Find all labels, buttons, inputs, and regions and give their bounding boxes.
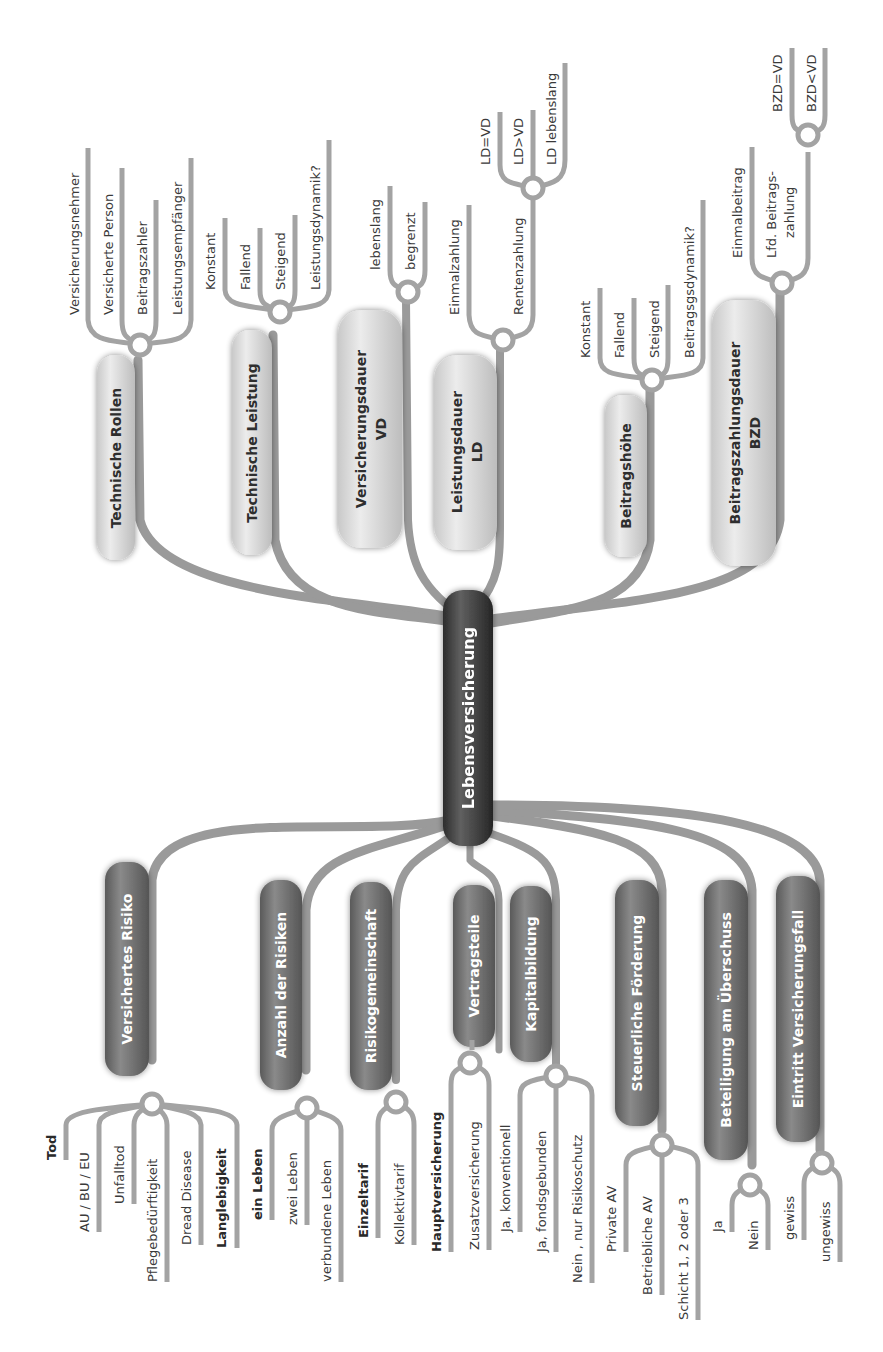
hub-circle xyxy=(493,330,513,350)
leaf-label: Kollektivtarif xyxy=(392,1163,407,1245)
leaf-label: Nein xyxy=(746,1220,761,1250)
leaf-label: Pflegebedürftigkeit xyxy=(145,1159,160,1282)
leaf-label: Fallend xyxy=(612,312,627,358)
branch-label-line2: VD xyxy=(373,418,389,440)
leaves-vertragsteile: Hauptversicherung Zusatzversicherung xyxy=(429,1053,489,1252)
leaf-label: Beitragsgsdynamik? xyxy=(682,226,697,358)
branch-label: Eintritt Versicherungsfall xyxy=(790,910,806,1109)
branch-label: Beitragshöhe xyxy=(618,423,634,528)
leaves-technische-leistung: Konstant Fallend Steigend Leistungsdynam… xyxy=(203,140,329,322)
leaf-label: BZD<VD xyxy=(804,54,819,112)
leaf-label: Leistungsempfänger xyxy=(170,181,185,315)
branch-leistungsdauer[interactable]: Leistungsdauer LD xyxy=(434,355,497,550)
leaf-label: LD>VD xyxy=(511,118,526,165)
branch-label-line2: BZD xyxy=(747,417,763,449)
hub-circle xyxy=(297,1098,317,1118)
leaf-label: Steigend xyxy=(273,232,288,290)
hub-circle xyxy=(772,273,792,293)
leaf-label: Versicherte Person xyxy=(101,194,116,315)
hub-circle xyxy=(130,335,150,355)
leaf-label: zwei Leben xyxy=(285,1152,300,1225)
branch-label: Anzahl der Risiken xyxy=(273,912,289,1058)
leaves-anzahl-der-risiken: ein Leben zwei Leben verbundene Leben xyxy=(250,1098,341,1282)
leaf-label: Leistungsdynamik? xyxy=(308,165,323,290)
branch-label-line1: Leistungsdauer xyxy=(449,391,465,513)
branch-label: Kapitalbildung xyxy=(523,916,539,1032)
leaf-label: Konstant xyxy=(203,233,218,290)
leaf-label: Schicht 1, 2 oder 3 xyxy=(676,1197,691,1320)
leaf-label: Hauptversicherung xyxy=(429,1112,444,1252)
branch-versicherungsdauer[interactable]: Versicherungsdauer VD xyxy=(338,310,402,548)
leaf-label: ungewiss xyxy=(818,1201,833,1262)
branch-label: Risikogemeinschaft xyxy=(363,908,379,1063)
branch-anzahl-der-risiken[interactable]: Anzahl der Risiken xyxy=(260,880,302,1090)
mindmap-canvas: Lebensversicherung Technische Rollen Tec… xyxy=(0,0,883,1352)
branch-beteiligung-am-ueberschuss[interactable]: Beteiligung am Überschuss xyxy=(704,880,748,1160)
leaf-label: Dread Disease xyxy=(179,1150,194,1245)
leaf-label: Tod xyxy=(44,1135,59,1160)
branch-label: Beteiligung am Überschuss xyxy=(717,912,734,1128)
leaves-versicherungsdauer: lebenslang begrenzt xyxy=(368,186,425,302)
leaf-label: Rentenzahlung xyxy=(511,218,526,315)
hub-circle xyxy=(523,178,543,198)
leaf-label: zahlung xyxy=(782,187,797,238)
leaf-label: BZD=VD xyxy=(770,54,785,112)
branch-label-line2: LD xyxy=(469,442,485,463)
leaf-label: Betriebliche AV xyxy=(640,1196,655,1295)
hub-circle xyxy=(642,370,662,390)
leaves-beitragshoehe: Konstant Fallend Steigend Beitragsgsdyna… xyxy=(578,200,703,390)
hub-circle xyxy=(270,302,290,322)
leaf-label: Versicherungsnehmer xyxy=(67,172,82,315)
leaf-label: lebenslang xyxy=(368,199,383,270)
leaf-label: Einzeltarif xyxy=(356,1163,371,1238)
branch-versichertes-risiko[interactable]: Versichertes Risiko xyxy=(105,862,149,1076)
leaf-label: Ja, konventionell xyxy=(498,1125,513,1233)
leaf-label: AU / BU / EU xyxy=(77,1152,92,1232)
leaf-label: Steigend xyxy=(647,300,662,358)
branch-vertragsteile[interactable]: Vertragsteile xyxy=(453,885,495,1047)
branch-label: Steuerliche Förderung xyxy=(629,915,645,1092)
branch-eintritt-versicherungsfall[interactable]: Eintritt Versicherungsfall xyxy=(776,876,820,1142)
branch-risikogemeinschaft[interactable]: Risikogemeinschaft xyxy=(350,882,392,1090)
branch-label: Technische Leistung xyxy=(244,363,260,522)
branch-label-line1: Versicherungsdauer xyxy=(353,350,369,508)
leaf-label: verbundene Leben xyxy=(319,1160,334,1282)
leaf-label: Fallend xyxy=(238,244,253,290)
leaf-label: Ja xyxy=(710,1220,725,1233)
branch-steuerliche-foerderung[interactable]: Steuerliche Förderung xyxy=(615,880,659,1126)
hub-circle xyxy=(398,282,418,302)
leaf-label: Konstant xyxy=(578,301,593,358)
leaf-label: Unfalltod xyxy=(112,1145,127,1204)
leaf-label: ein Leben xyxy=(250,1148,265,1220)
leaf-label: Zusatzversicherung xyxy=(467,1121,482,1250)
leaves-steuerliche-foerderung: Private AV Betriebliche AV Schicht 1, 2 … xyxy=(604,1135,698,1320)
center-node[interactable]: Lebensversicherung xyxy=(443,590,493,846)
leaf-label: Private AV xyxy=(604,1185,619,1252)
branch-kapitalbildung[interactable]: Kapitalbildung xyxy=(510,886,552,1062)
branch-technische-rollen[interactable]: Technische Rollen xyxy=(97,355,135,560)
hub-circle xyxy=(652,1135,672,1155)
center-node-label: Lebensversicherung xyxy=(459,627,478,809)
leaves-versichertes-risiko: Tod AU / BU / EU Unfalltod Pflegebedürft… xyxy=(44,1094,237,1282)
leaf-label: begrenzt xyxy=(403,212,418,270)
leaf-label: Lfd. Beitrags- xyxy=(764,171,779,258)
leaves-leistungsdauer: Einmalzahlung Rentenzahlung LD=VD LD>VD … xyxy=(447,63,565,350)
hub-circle xyxy=(812,1153,832,1173)
hub-circle xyxy=(460,1053,480,1073)
branch-technische-leistung[interactable]: Technische Leistung xyxy=(232,330,272,555)
branch-label: Versichertes Risiko xyxy=(119,893,135,1044)
hub-circle xyxy=(798,125,818,145)
leaves-beteiligung-am-ueberschuss: Ja Nein xyxy=(710,1175,768,1250)
leaves-technische-rollen: Versicherungsnehmer Versicherte Person B… xyxy=(67,148,191,355)
branch-beitragszahlungsdauer[interactable]: Beitragszahlungsdauer BZD xyxy=(712,300,776,566)
leaf-label: Einmalbeitrag xyxy=(730,167,745,258)
branch-beitragshoehe[interactable]: Beitragshöhe xyxy=(605,395,647,557)
hub-circle xyxy=(740,1175,760,1195)
leaves-beitragszahlungsdauer: Einmalbeitrag Lfd. Beitrags- zahlung BZD… xyxy=(730,48,825,293)
leaves-eintritt-versicherungsfall: gewiss ungewiss xyxy=(782,1153,840,1262)
mindmap-svg: Lebensversicherung Technische Rollen Tec… xyxy=(0,0,883,1352)
leaf-label: Langlebigkeit xyxy=(214,1148,229,1248)
branch-label: Technische Rollen xyxy=(108,388,124,529)
hub-circle xyxy=(546,1066,566,1086)
hub-circle xyxy=(386,1092,406,1112)
